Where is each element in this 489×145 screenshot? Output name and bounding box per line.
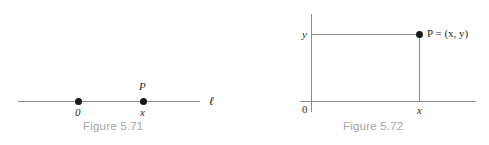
- line-ell-label: ℓ: [209, 95, 214, 107]
- x-axis: [300, 101, 476, 102]
- figure-coordinate-plane: y 0 x P = (x, y) Figure 5.72: [245, 0, 489, 145]
- figure-caption: Figure 5.71: [83, 121, 143, 133]
- point-p-label: P: [139, 81, 146, 92]
- figure-number-line: 0 P x ℓ Figure 5.71: [0, 0, 245, 145]
- number-line-axis: [18, 101, 200, 102]
- figure-pair-container: 0 P x ℓ Figure 5.71 y 0 x P = (x, y) Fig…: [0, 0, 489, 145]
- y-axis-label: y: [302, 29, 307, 40]
- vertical-guide-line: [419, 34, 420, 101]
- origin-label: 0: [75, 107, 81, 118]
- origin-point-dot: [75, 98, 82, 105]
- point-p-dot: [140, 98, 147, 105]
- x-axis-label: x: [417, 105, 422, 116]
- figure-caption: Figure 5.72: [343, 121, 403, 133]
- coordinate-x-label: x: [140, 107, 145, 118]
- point-p-coordinate-label: P = (x, y): [427, 28, 468, 39]
- point-p-dot: [416, 31, 423, 38]
- horizontal-guide-line: [312, 34, 419, 35]
- origin-label: 0: [302, 104, 308, 115]
- y-axis: [311, 14, 312, 112]
